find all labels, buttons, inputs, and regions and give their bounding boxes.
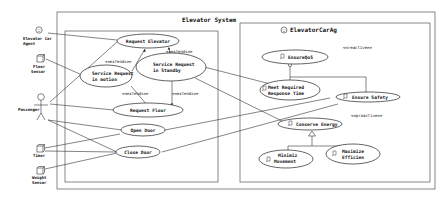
- svg-text:Request Floor: Request Floor: [130, 108, 166, 113]
- svg-text:Maximize: Maximize: [342, 149, 364, 154]
- goal-meet-required-response-time[interactable]: Meet Required Response Time: [260, 80, 320, 100]
- svg-text:Sensor: Sensor: [31, 69, 46, 74]
- svg-text:Open Door: Open Door: [131, 128, 156, 133]
- reactive-stereotype: <<reactive>>: [343, 45, 372, 50]
- svg-text:Sensor: Sensor: [32, 180, 47, 185]
- svg-text:in motion: in motion: [92, 77, 117, 82]
- svg-text:Conserve Energy: Conserve Energy: [296, 122, 338, 127]
- svg-text:Movement: Movement: [274, 159, 296, 164]
- svg-text:Minimiz: Minimiz: [278, 153, 298, 158]
- actor-timer[interactable]: Timer: [33, 145, 46, 159]
- svg-text:Request Elevator: Request Elevator: [126, 39, 170, 44]
- use-case-service-request-in-standby[interactable]: Service Request in Standby: [136, 53, 206, 81]
- cube-sensor-icon: [37, 55, 45, 63]
- agent-title: ElevatorCarAg: [290, 26, 337, 34]
- goal-ensure-safety[interactable]: Ensure Safety: [336, 92, 400, 102]
- svg-text:Close Door: Close Door: [124, 150, 152, 155]
- smiley-agent-icon: [36, 27, 42, 33]
- svg-text:Timer: Timer: [33, 153, 46, 158]
- actor-floor-sensor[interactable]: Floor Sensor: [31, 55, 46, 75]
- svg-text:Efficien: Efficien: [342, 155, 364, 160]
- use-case-open-door[interactable]: Open Door: [121, 124, 165, 136]
- use-case-close-door[interactable]: Close Door: [116, 146, 160, 158]
- svg-text:Ensure Safety: Ensure Safety: [352, 95, 388, 100]
- svg-text:Service Request: Service Request: [92, 71, 134, 76]
- extends-label: <<extends>>: [172, 91, 199, 96]
- extends-label: <<extends>>: [105, 59, 132, 64]
- use-case-diagram: Elevator System ElevatorCarAg: [0, 0, 441, 200]
- goal-ensure-qos[interactable]: EnsureQoS: [262, 50, 328, 64]
- svg-text:Passenger: Passenger: [18, 107, 40, 112]
- svg-text:EnsureQoS: EnsureQoS: [288, 55, 313, 60]
- cube-sensor-icon: [37, 145, 45, 153]
- svg-text:in Standby: in Standby: [153, 68, 181, 73]
- agent-smiley-icon: [281, 27, 287, 33]
- use-case-request-floor[interactable]: Request Floor: [113, 103, 183, 117]
- actor-elevator-car-agent[interactable]: Elevator Car Agent: [23, 27, 52, 46]
- goal-conserve-energy[interactable]: Conserve Energy: [278, 118, 342, 130]
- actor-passenger[interactable]: Passenger: [18, 94, 48, 120]
- goal-minimize-movement[interactable]: Minimiz Movement: [259, 150, 313, 168]
- extends-label: <<extends>>: [122, 91, 149, 96]
- proactive-stereotype: <<proactive>>: [351, 113, 383, 118]
- svg-text:Agent: Agent: [23, 41, 36, 46]
- actor-weight-sensor[interactable]: Weight Sensor: [32, 167, 47, 186]
- system-title: Elevator System: [182, 16, 237, 24]
- use-case-request-elevator[interactable]: Request Elevator: [117, 34, 179, 48]
- svg-text:Response Time: Response Time: [268, 91, 304, 96]
- use-case-service-request-in-motion[interactable]: Service Request in motion: [80, 65, 134, 87]
- svg-text:Meet Required: Meet Required: [268, 85, 304, 90]
- goal-maximize-efficiency[interactable]: Maximize Efficien: [326, 144, 380, 164]
- cube-sensor-icon: [37, 167, 45, 175]
- svg-text:Service Request: Service Request: [153, 62, 195, 67]
